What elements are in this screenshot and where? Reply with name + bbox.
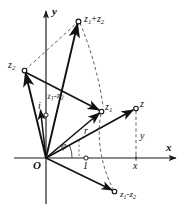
point-z1	[99, 109, 104, 114]
label-z: z	[140, 99, 144, 109]
axis-label-y: y	[52, 6, 57, 17]
dash-z2-to-sum	[25, 22, 78, 70]
origin-label: O	[33, 160, 41, 171]
label-z1-plus-z2: z1+z2	[84, 14, 104, 25]
label-z1: z1	[105, 102, 112, 113]
label-z1-sub: 1	[109, 106, 112, 113]
label-z1-minus-z2-bottom: z1-z2	[120, 190, 136, 200]
label-argument-phi: φ	[61, 141, 67, 151]
figure-canvas	[0, 0, 184, 210]
label-diff-bot-sub2: 2	[133, 194, 136, 200]
point-z2	[22, 68, 27, 73]
label-real-part-x: x	[133, 161, 137, 171]
vector-O-to-z	[46, 110, 133, 158]
angle-arc-phi	[70, 146, 73, 159]
complex-plane-figure: y x O 1 i z1+z2 z2 z1 z z1-z2 z1-z2 r φ …	[0, 0, 184, 210]
point-z	[134, 106, 139, 111]
label-imaginary-part-y: y	[140, 131, 144, 141]
label-z2: z2	[8, 60, 15, 71]
label-diff-mid-sub2: 2	[60, 94, 63, 100]
dash-sum-to-z1	[80, 23, 103, 107]
point-z-diff	[112, 189, 117, 194]
imaginary-unit-label: i	[38, 101, 41, 111]
vector-O-to-z2	[26, 73, 47, 158]
dashed-construction-group	[25, 22, 136, 189]
label-modulus-r: r	[84, 126, 88, 136]
vector-group	[25, 24, 133, 190]
label-z1-minus-z2-middle: z1-z2	[47, 91, 64, 102]
axis-label-x: x	[166, 142, 172, 153]
imaginary-unit-marker	[44, 113, 48, 117]
unit-label: 1	[83, 161, 88, 171]
label-z2-sub: 2	[12, 64, 15, 71]
label-z1-plus-z2-sub2: 2	[101, 18, 104, 25]
point-z-sum	[76, 19, 81, 24]
vector-O-to-z-diff	[46, 158, 112, 190]
